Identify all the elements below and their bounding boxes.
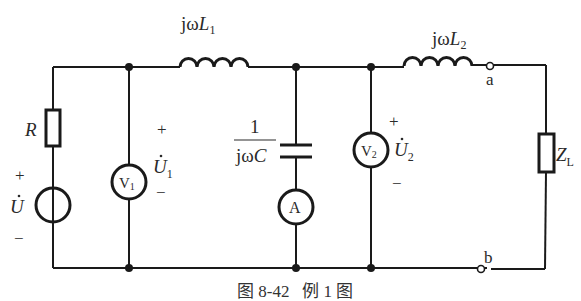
node-dot <box>292 264 300 272</box>
ammeter-label: A <box>289 199 301 216</box>
label-source-voltage: U <box>10 196 25 217</box>
node-dot <box>125 63 133 71</box>
figure-caption: 图 8-42 例 1 图 <box>237 282 353 301</box>
cap-denominator: jωC <box>235 145 267 166</box>
load-impedance-zl <box>539 134 554 172</box>
label-v2-voltage: U2 <box>394 139 414 164</box>
v1-minus: − <box>156 183 166 202</box>
phasor-dot <box>401 138 404 141</box>
cap-numerator: 1 <box>250 116 260 137</box>
v2-minus: − <box>392 174 402 193</box>
resistor-r <box>46 110 60 146</box>
source-plus: + <box>15 166 25 185</box>
label-terminal-a: a <box>486 70 494 89</box>
node-dot <box>292 63 300 71</box>
source-minus: − <box>14 229 24 248</box>
label-load: ZL <box>556 144 574 169</box>
inductor-l1 <box>180 59 248 68</box>
phasor-dot <box>18 195 21 198</box>
node-dot <box>367 264 375 272</box>
label-inductor1: jωL1 <box>180 13 215 37</box>
circuit-diagram: jωL1 jωL2 R + U − V1 + U1 − 1 jωC A V2 +… <box>0 0 581 301</box>
v1-plus: + <box>157 120 167 139</box>
wire-load-bottom <box>545 172 546 269</box>
phasor-dot <box>160 155 163 158</box>
label-terminal-b: b <box>484 248 493 267</box>
label-resistor: R <box>24 119 37 140</box>
v2-plus: + <box>389 112 399 131</box>
node-dot <box>125 264 133 272</box>
terminal-a <box>487 63 494 70</box>
inductor-l2 <box>404 58 472 66</box>
label-v1-voltage: U1 <box>153 156 173 181</box>
node-dot <box>367 63 375 71</box>
label-inductor2: jωL2 <box>431 28 466 52</box>
